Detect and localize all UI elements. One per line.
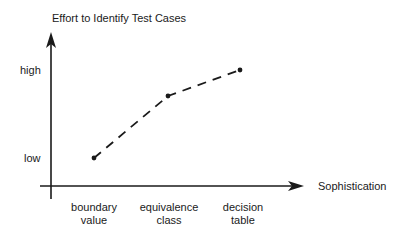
y-tick-high: high <box>20 64 41 77</box>
data-point-decision-table <box>238 68 243 73</box>
category-line: decision <box>203 201 283 214</box>
category-line: boundary <box>54 201 134 214</box>
category-line: class <box>129 214 209 227</box>
series-line <box>94 70 240 158</box>
category-line: equivalence <box>129 201 209 214</box>
y-tick-low: low <box>24 152 41 165</box>
x-category-boundary-value: boundary value <box>54 201 134 227</box>
category-line: table <box>203 214 283 227</box>
x-axis-title: Sophistication <box>318 180 387 193</box>
y-axis-title: Effort to Identify Test Cases <box>52 12 186 25</box>
category-line: value <box>54 214 134 227</box>
x-category-equivalence-class: equivalence class <box>129 201 209 227</box>
data-point-boundary-value <box>92 156 97 161</box>
data-point-equivalence-class <box>166 94 171 99</box>
x-category-decision-table: decision table <box>203 201 283 227</box>
